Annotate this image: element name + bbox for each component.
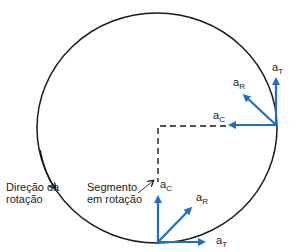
right-aT-label: aT — [272, 61, 283, 78]
bottom-aR-arrow — [158, 209, 190, 242]
right-aR-arrow — [245, 96, 276, 125]
bottom-aR-label: aR — [196, 191, 208, 208]
rotating-segment-label: Segmento em rotação — [87, 181, 142, 205]
rotation-direction-line-2: rotação — [6, 193, 59, 205]
rotation-direction-line-1: Direção da — [6, 181, 59, 193]
right-aR-label: aR — [233, 76, 245, 93]
rotating-segment-line-1: Segmento — [87, 181, 142, 193]
rotation-acceleration-diagram — [0, 0, 297, 252]
rotating-segment-line-2: em rotação — [87, 193, 142, 205]
bottom-aT-label: aT — [216, 234, 227, 251]
right-aC-label: aC — [213, 109, 225, 126]
rotation-direction-label: Direção da rotação — [6, 181, 59, 205]
bottom-aC-label: aC — [160, 178, 172, 195]
dashed-radius-line — [158, 126, 226, 182]
